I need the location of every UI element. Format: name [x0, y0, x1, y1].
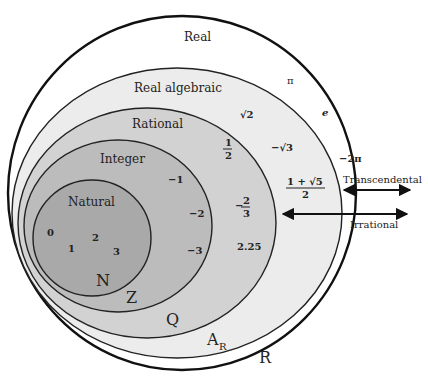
number-sets-diagram: Real Real algebraic Rational Integer Nat…	[0, 0, 428, 387]
symbol-real-algebraic: A	[206, 330, 219, 349]
member-3: 3	[113, 246, 120, 257]
member-e: e	[322, 107, 328, 118]
member-half-denominator: 2	[225, 150, 232, 161]
member-golden-numerator: 1 + √5	[287, 176, 323, 187]
label-integer: Integer	[100, 152, 145, 166]
member-2: 2	[92, 232, 99, 243]
member-neg3: −3	[187, 245, 202, 256]
member-2-25: 2.25	[237, 241, 261, 252]
label-real-algebraic: Real algebraic	[134, 81, 222, 95]
label-transcendental: Transcendental	[343, 174, 422, 185]
member-pi: π	[287, 75, 294, 86]
label-irrational: Irrational	[350, 219, 398, 230]
member-neg1: −1	[168, 174, 183, 185]
member-two-thirds-numerator: 2	[243, 195, 250, 206]
label-natural: Natural	[68, 195, 115, 209]
symbol-rational: Q	[166, 310, 179, 329]
member-neg-2pi: −2π	[339, 153, 362, 164]
symbol-natural: N	[96, 271, 110, 290]
member-1: 1	[68, 243, 75, 254]
member-neg-sqrt3: −√3	[271, 142, 293, 153]
member-half-numerator: 1	[225, 137, 232, 148]
member-0: 0	[47, 227, 54, 238]
symbol-integer: Z	[126, 288, 137, 307]
member-two-thirds-denominator: 3	[243, 208, 250, 219]
label-rational: Rational	[132, 117, 183, 131]
member-golden-denominator: 2	[302, 189, 309, 200]
member-sqrt2: √2	[240, 109, 254, 120]
symbol-real: R	[259, 348, 272, 367]
member-neg2: −2	[189, 208, 204, 219]
symbol-real-algebraic-subscript: R	[219, 341, 227, 352]
label-real: Real	[184, 30, 211, 44]
